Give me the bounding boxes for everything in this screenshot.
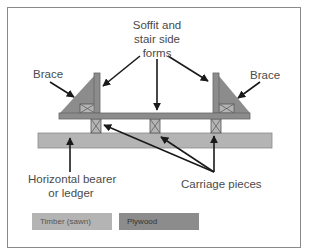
legend-plywood: Plywood [119, 213, 199, 230]
label-carriage-pieces: Carriage pieces [181, 177, 262, 191]
label-soffit-forms: Soffit and stair side forms [124, 18, 190, 60]
arrow-brace-right [238, 82, 260, 98]
legend-timber: Timber (sawn) [32, 213, 112, 230]
horizontal-bearer [38, 133, 272, 148]
soffit-deck [59, 113, 250, 119]
arrow-soffit-to-left-form [103, 56, 140, 86]
label-brace-right: Brace [250, 68, 280, 82]
label-horizontal-bearer: Horizontal bearer or ledger [28, 172, 114, 200]
timber-block-right [219, 104, 234, 113]
carriage-piece-center [150, 119, 160, 133]
legend-timber-label: Timber (sawn) [40, 217, 91, 226]
legend-plywood-label: Plywood [127, 217, 157, 226]
label-brace-left: Brace [33, 67, 63, 81]
arrow-brace-left [50, 82, 74, 97]
side-form-left [94, 73, 100, 113]
timber-block-left [80, 104, 95, 113]
carriage-piece-right [211, 119, 221, 133]
carriage-piece-left [91, 119, 101, 133]
side-form-right [213, 73, 219, 113]
